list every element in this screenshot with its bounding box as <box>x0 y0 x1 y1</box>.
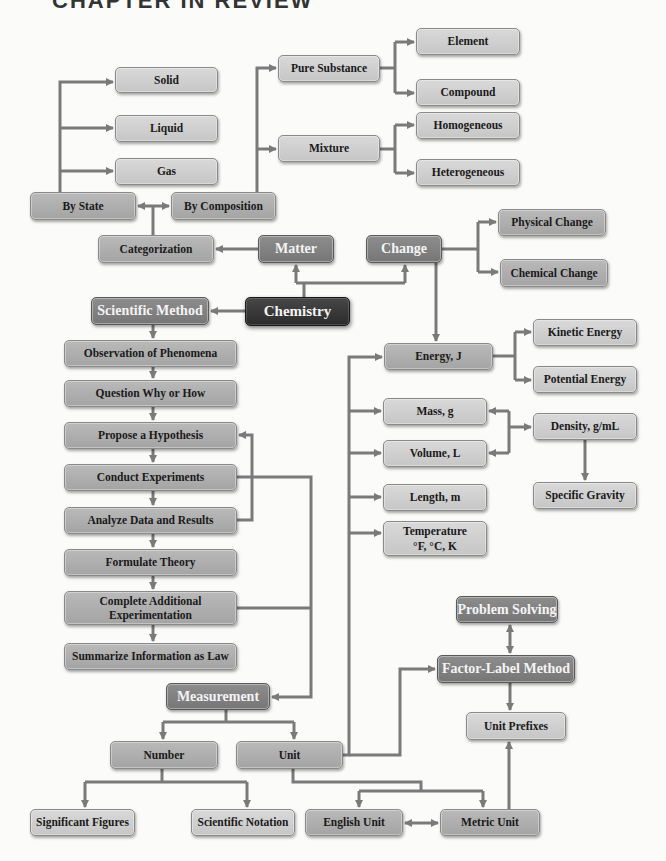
node-label: Measurement <box>177 688 259 706</box>
node-potential-energy: Potential Energy <box>533 366 637 393</box>
node-label: Conduct Experiments <box>97 470 205 484</box>
node-label: Solid <box>154 73 179 87</box>
node-gas: Gas <box>115 158 218 185</box>
node-label: Metric Unit <box>461 815 519 829</box>
node-label: Factor-Label Method <box>442 660 570 678</box>
node-density: Density, g/mL <box>533 413 637 440</box>
node-kinetic-energy: Kinetic Energy <box>533 319 637 346</box>
node-label: Mass, g <box>416 404 453 418</box>
node-heterogeneous: Heterogeneous <box>416 159 520 186</box>
node-label: Potential Energy <box>544 372 627 386</box>
node-label-line1: Complete Additional <box>100 594 202 608</box>
node-label: Homogeneous <box>434 118 503 132</box>
node-label: Summarize Information as Law <box>72 649 229 663</box>
node-change: Change <box>366 235 442 263</box>
node-by-composition: By Composition <box>171 192 276 220</box>
node-significant-figures: Significant Figures <box>30 809 135 836</box>
node-by-state: By State <box>30 192 136 220</box>
node-compound: Compound <box>416 79 520 106</box>
node-label: Specific Gravity <box>545 488 625 502</box>
node-label-line2: °F, °C, K <box>413 539 457 553</box>
node-hypothesis: Propose a Hypothesis <box>64 422 237 449</box>
node-length: Length, m <box>383 484 487 511</box>
node-label: Length, m <box>410 490 460 504</box>
node-label: Matter <box>275 240 317 258</box>
node-solid: Solid <box>115 67 218 93</box>
node-label: Gas <box>157 164 176 178</box>
node-label: Liquid <box>150 121 183 135</box>
node-label: Problem Solving <box>458 601 557 619</box>
node-label: Density, g/mL <box>551 419 619 433</box>
node-unit: Unit <box>236 741 343 769</box>
node-label: Question Why or How <box>96 386 206 400</box>
node-label: Scientific Method <box>97 302 202 320</box>
node-label: Compound <box>441 85 496 99</box>
node-label: By State <box>62 199 103 213</box>
node-label: Unit <box>279 748 301 762</box>
node-metric-unit: Metric Unit <box>440 809 540 836</box>
node-label: Propose a Hypothesis <box>98 428 203 442</box>
node-specific-gravity: Specific Gravity <box>533 482 637 509</box>
node-label-line1: Temperature <box>403 524 467 538</box>
node-label: Number <box>144 748 185 762</box>
node-scientific-notation: Scientific Notation <box>191 809 295 836</box>
node-factor-label-method: Factor-Label Method <box>437 655 575 683</box>
node-element: Element <box>416 28 520 55</box>
node-matter: Matter <box>258 235 334 263</box>
node-label: Mixture <box>309 141 349 155</box>
node-theory: Formulate Theory <box>64 549 237 576</box>
node-label: Observation of Phenomena <box>84 346 218 360</box>
node-label: Significant Figures <box>36 815 129 829</box>
node-english-unit: English Unit <box>305 809 403 836</box>
node-label: Pure Substance <box>291 61 367 75</box>
node-label: Volume, L <box>410 446 461 460</box>
node-temperature: Temperature °F, °C, K <box>383 521 487 556</box>
node-label: Physical Change <box>511 215 592 229</box>
node-chemistry: Chemistry <box>245 297 350 326</box>
node-label: Chemistry <box>264 302 332 321</box>
node-question: Question Why or How <box>64 380 237 407</box>
node-label: Scientific Notation <box>197 815 288 829</box>
node-experiments: Conduct Experiments <box>64 464 237 491</box>
node-mass: Mass, g <box>383 398 487 425</box>
node-observation: Observation of Phenomena <box>64 340 237 367</box>
node-categorization: Categorization <box>98 235 214 263</box>
node-label: Categorization <box>120 242 193 256</box>
node-label: Unit Prefixes <box>484 719 548 733</box>
node-label: Energy, J <box>415 349 462 363</box>
node-physical-change: Physical Change <box>498 209 606 236</box>
node-liquid: Liquid <box>115 115 218 142</box>
node-label: Change <box>381 240 427 258</box>
node-mixture: Mixture <box>278 135 380 162</box>
node-analyze: Analyze Data and Results <box>64 507 237 534</box>
node-law: Summarize Information as Law <box>64 643 237 670</box>
node-label: By Composition <box>184 199 263 213</box>
node-label: Chemical Change <box>510 266 597 280</box>
node-additional-experimentation: Complete Additional Experimentation <box>64 591 237 625</box>
node-problem-solving: Problem Solving <box>456 596 558 623</box>
node-scientific-method: Scientific Method <box>91 297 209 325</box>
node-measurement: Measurement <box>166 683 270 710</box>
node-energy: Energy, J <box>384 343 493 370</box>
node-homogeneous: Homogeneous <box>416 112 520 139</box>
node-label: Element <box>448 34 489 48</box>
node-volume: Volume, L <box>383 440 487 467</box>
node-label: Formulate Theory <box>105 555 195 569</box>
node-label: Analyze Data and Results <box>87 513 213 527</box>
node-label: Heterogeneous <box>432 165 505 179</box>
node-chemical-change: Chemical Change <box>500 259 608 287</box>
node-label-line2: Experimentation <box>109 608 192 622</box>
node-unit-prefixes: Unit Prefixes <box>466 712 566 740</box>
node-pure-substance: Pure Substance <box>278 55 380 82</box>
node-number: Number <box>110 741 218 769</box>
node-label: Kinetic Energy <box>548 325 622 339</box>
node-label: English Unit <box>323 815 385 829</box>
